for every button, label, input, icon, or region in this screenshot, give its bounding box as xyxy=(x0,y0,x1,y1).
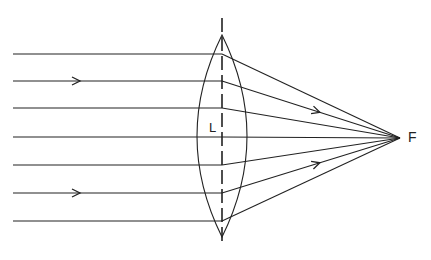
refracted-ray xyxy=(222,138,400,193)
focus-label: F xyxy=(408,129,417,145)
lens-label: L xyxy=(209,120,216,135)
refracted-ray xyxy=(222,108,400,138)
refracted-ray xyxy=(222,138,400,165)
refracted-ray xyxy=(222,54,400,138)
refracted-ray xyxy=(222,81,400,138)
refracted-ray xyxy=(222,138,400,221)
refracted-ray xyxy=(222,137,400,138)
